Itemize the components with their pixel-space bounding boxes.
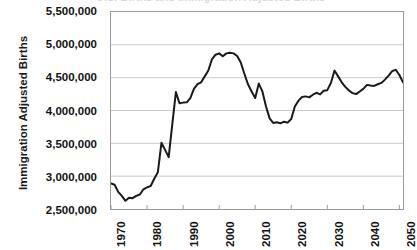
x-axis-tick-label: 2030 <box>333 221 345 247</box>
x-axis-tick-label: 1980 <box>151 221 163 247</box>
x-axis-tick-label: 2010 <box>260 221 272 247</box>
y-axis-tick-label: 3,000,000 <box>46 171 97 183</box>
y-axis-tick-label: 3,500,000 <box>46 138 97 150</box>
y-axis-tick-label: 2,500,000 <box>46 204 97 216</box>
x-axis-tick-label: 2040 <box>369 221 381 247</box>
x-axis-tick-label: 1990 <box>188 221 200 247</box>
y-axis-tick-label: 5,500,000 <box>46 5 97 17</box>
x-axis-tick-label: 2050 <box>405 221 417 247</box>
plot-svg <box>111 12 403 209</box>
y-axis-tick-label: 5,000,000 <box>46 38 97 50</box>
x-axis-ticks <box>111 205 399 209</box>
gridlines <box>111 45 403 176</box>
plot-area <box>110 11 404 210</box>
y-axis-tick-label: 4,000,000 <box>46 105 97 117</box>
x-axis-tick-label: 2000 <box>224 221 236 247</box>
series-lines <box>111 53 403 201</box>
y-axis-tick-labels: 5,500,0005,000,0004,500,0004,000,0003,50… <box>0 0 104 250</box>
y-axis-tick-label: 4,500,000 <box>46 71 97 83</box>
chart-title-text: U.S. Births and Immigration Adjusted Bir… <box>96 0 325 3</box>
x-axis-tick-labels: 197019801990200020102020203020402050 <box>110 213 404 250</box>
x-axis-tick-label: 1970 <box>115 221 127 247</box>
series-line <box>111 53 403 201</box>
x-axis-tick-label: 2020 <box>296 221 308 247</box>
